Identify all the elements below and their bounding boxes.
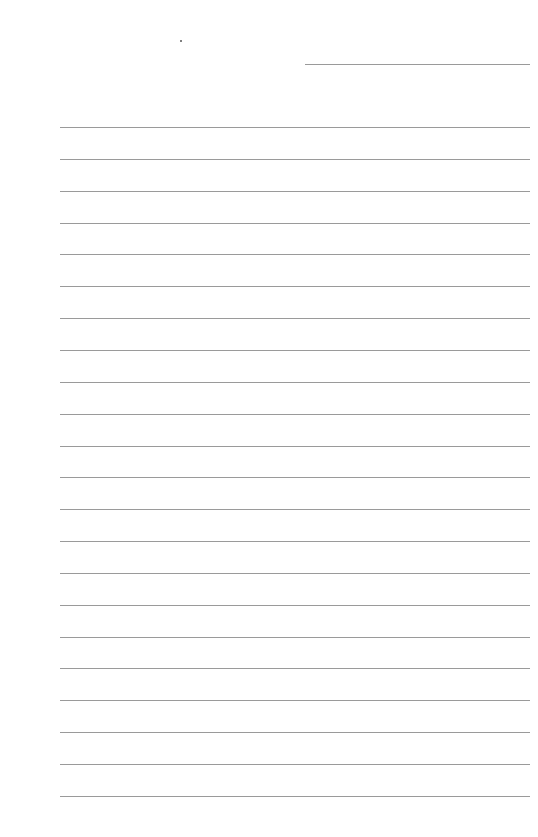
ruled-line	[60, 159, 530, 160]
ruled-line	[60, 732, 530, 733]
ruled-line	[60, 254, 530, 255]
ruled-line	[60, 605, 530, 606]
header-name-line	[305, 64, 530, 65]
ruled-line	[60, 668, 530, 669]
mark-dot	[180, 40, 182, 42]
ruled-line	[60, 414, 530, 415]
ruled-line	[60, 509, 530, 510]
ruled-line	[60, 446, 530, 447]
ruled-line	[60, 191, 530, 192]
ruled-line	[60, 286, 530, 287]
ruled-line	[60, 700, 530, 701]
ruled-line	[60, 796, 530, 797]
ruled-line	[60, 477, 530, 478]
ruled-line	[60, 541, 530, 542]
ruled-line	[60, 350, 530, 351]
ruled-line	[60, 637, 530, 638]
ruled-line	[60, 764, 530, 765]
ruled-line	[60, 382, 530, 383]
ruled-line	[60, 318, 530, 319]
ruled-line	[60, 573, 530, 574]
ruled-line	[60, 223, 530, 224]
ruled-line	[60, 127, 530, 128]
